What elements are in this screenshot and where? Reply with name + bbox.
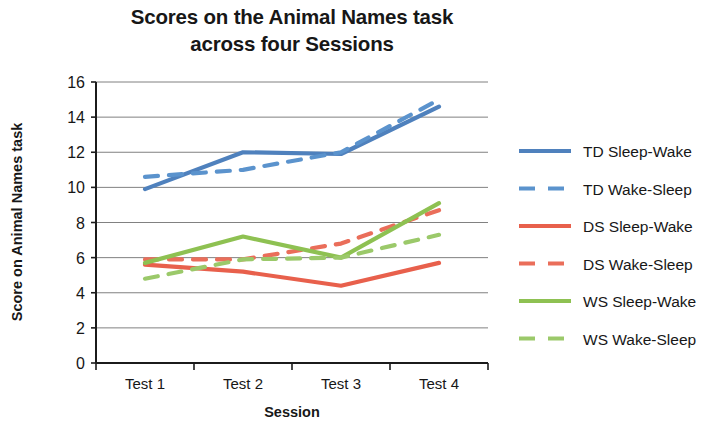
x-category-label: Test 2 xyxy=(223,375,263,392)
x-category-label: Test 4 xyxy=(419,375,459,392)
y-tick-label: 8 xyxy=(76,215,85,232)
chart-background xyxy=(0,0,708,423)
chart-title-line-1: Scores on the Animal Names task xyxy=(131,5,454,28)
y-tick-label: 14 xyxy=(67,109,85,126)
legend-label-ds-sleep-wake: DS Sleep-Wake xyxy=(583,218,693,235)
y-tick-label: 2 xyxy=(76,320,85,337)
legend-label-ws-wake-sleep: WS Wake-Sleep xyxy=(583,331,696,348)
y-tick-label: 10 xyxy=(67,179,85,196)
y-tick-label: 4 xyxy=(76,285,85,302)
y-tick-label: 16 xyxy=(67,74,85,91)
x-category-label: Test 3 xyxy=(321,375,361,392)
legend-label-ds-wake-sleep: DS Wake-Sleep xyxy=(583,256,693,273)
x-axis-title: Session xyxy=(264,404,320,420)
x-category-label: Test 1 xyxy=(125,375,165,392)
chart-title-line-2: across four Sessions xyxy=(190,32,393,55)
y-tick-label: 0 xyxy=(76,355,85,372)
animal-names-line-chart: Scores on the Animal Names task across f… xyxy=(0,0,708,423)
legend-label-ws-sleep-wake: WS Sleep-Wake xyxy=(583,293,696,310)
y-axis-title: Score on Animal Names task xyxy=(9,122,25,321)
y-tick-label: 12 xyxy=(67,144,85,161)
y-tick-label: 6 xyxy=(76,250,85,267)
legend-label-td-sleep-wake: TD Sleep-Wake xyxy=(583,143,692,160)
legend-label-td-wake-sleep: TD Wake-Sleep xyxy=(583,181,692,198)
